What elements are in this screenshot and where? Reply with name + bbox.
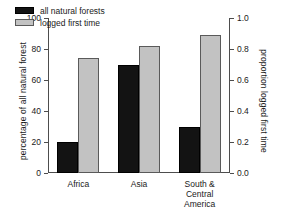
y-tick-label-right: 0.6 (237, 76, 249, 85)
legend: all natural forestslogged first time (15, 5, 105, 29)
y-tick-label-right: 0.4 (237, 107, 249, 116)
y-tick-label-right: 0.8 (237, 45, 249, 54)
bar (78, 58, 99, 173)
legend-item: logged first time (15, 17, 105, 28)
x-tick-label: South & Central America (184, 179, 215, 209)
y-axis-left-spine (48, 18, 49, 173)
y-tick-right (230, 111, 234, 112)
legend-label: logged first time (40, 18, 100, 28)
bar (179, 127, 200, 174)
y-tick-left (44, 142, 48, 143)
y-tick-left (44, 80, 48, 81)
bar (118, 65, 139, 174)
x-tick-label: Asia (131, 179, 148, 189)
y-tick-right (230, 142, 234, 143)
y-tick-label-right: 1.0 (237, 14, 249, 23)
y-axis-right-spine (229, 18, 230, 173)
y-tick-label-left: 40 (32, 107, 41, 116)
legend-item: all natural forests (15, 5, 105, 16)
legend-swatch-icon (15, 7, 34, 14)
y-tick-label-left: 80 (32, 45, 41, 54)
y-tick-left (44, 49, 48, 50)
y-axis-label-right: proportion logged first time (259, 26, 269, 176)
y-tick-right (230, 80, 234, 81)
y-tick-label-right: 0.2 (237, 138, 249, 147)
bar (200, 35, 221, 173)
y-tick-right (230, 49, 234, 50)
y-tick-label-left: 20 (32, 138, 41, 147)
bar (57, 142, 78, 173)
legend-swatch-icon (15, 19, 34, 26)
bar (139, 46, 160, 173)
y-tick-label-left: 60 (32, 76, 41, 85)
y-tick-right (230, 173, 234, 174)
x-tick-label: Africa (67, 179, 89, 189)
y-tick-right (230, 18, 234, 19)
bar-chart: percentage of all natural forest proport… (0, 0, 286, 214)
y-tick-label-left: 0 (36, 169, 41, 178)
y-tick-label-right: 0.0 (237, 169, 249, 178)
y-tick-left (44, 111, 48, 112)
plot-area: 020406080100 0.00.20.40.60.81.0 AfricaAs… (48, 18, 230, 173)
legend-label: all natural forests (40, 6, 105, 16)
y-axis-label-left: percentage of all natural forest (18, 26, 28, 176)
y-tick-left (44, 173, 48, 174)
